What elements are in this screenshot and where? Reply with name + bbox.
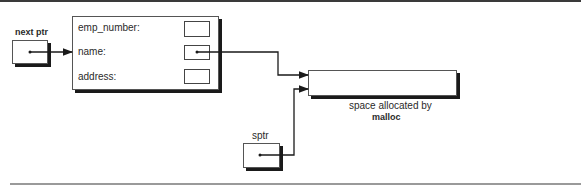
pointer-arrows <box>0 0 581 185</box>
sptr-arrow <box>260 89 308 155</box>
bottom-rule <box>10 183 581 185</box>
name-arrow <box>197 52 308 75</box>
